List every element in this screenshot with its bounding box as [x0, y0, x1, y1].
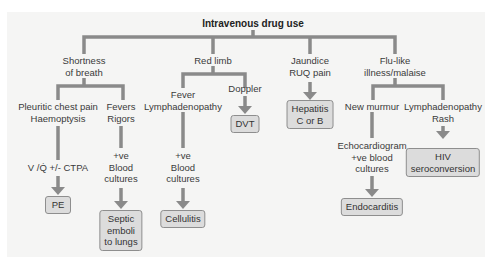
outcome-dvt: DVT — [231, 115, 260, 133]
test-blood-cultures-2: +ve Blood cultures — [166, 150, 199, 185]
node-flu-like: Flu-like illness/malaise — [364, 55, 426, 78]
outcome-hiv: HIV seroconversion — [406, 148, 480, 177]
node-jaundice: Jaundice RUQ pain — [289, 55, 331, 78]
node-doppler: Doppler — [228, 83, 261, 95]
outcome-pe: PE — [45, 196, 71, 214]
test-echocardiogram: Echocardiogram +ve blood cultures — [337, 140, 406, 175]
node-red-limb: Red limb — [194, 55, 232, 67]
outcome-cellulitis: Cellulitis — [160, 210, 205, 228]
connector-lines — [0, 0, 493, 268]
root-node: Intravenous drug use — [202, 18, 304, 30]
node-fever-lymph: Fever Lymphadenopathy — [144, 89, 222, 112]
node-new-murmur: New murmur — [345, 101, 399, 113]
node-lymph-rash: Lymphadenopathy Rash — [404, 101, 482, 124]
test-blood-cultures-1: +ve Blood cultures — [104, 150, 137, 185]
test-vq-ctpa: V /Q̇ +/- CTPA — [28, 162, 88, 174]
outcome-septic-emboli: Septic emboli to lungs — [99, 210, 142, 251]
node-pleuritic: Pleuritic chest pain Haemoptysis — [18, 101, 98, 124]
node-shortness-of-breath: Shortness of breath — [63, 55, 106, 78]
outcome-endocarditis: Endocarditis — [341, 198, 403, 216]
outcome-hepatitis: Hepatitis C or B — [287, 100, 334, 129]
node-fevers-rigors: Fevers Rigors — [106, 101, 135, 124]
